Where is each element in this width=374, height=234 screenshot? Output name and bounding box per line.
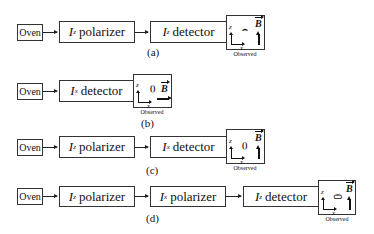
stage-kind: detector — [173, 24, 215, 40]
field-arrow-up-icon — [258, 34, 260, 45]
operator-subscript: x — [167, 143, 170, 151]
stage-box-c2: Ixdetector — [150, 136, 227, 158]
stage-kind: detector — [173, 139, 215, 155]
oven-label: Oven — [19, 142, 41, 153]
stage-kind: polarizer — [79, 189, 125, 205]
stage-box-c1: Izpolarizer — [59, 136, 135, 158]
stage-box-d3: Izdetector — [243, 186, 319, 207]
caption-a: (a) — [147, 46, 159, 58]
observed-box-c: zx () B — [226, 129, 265, 164]
stage-box-d1: Izpolarizer — [59, 186, 135, 207]
operator-subscript: x — [75, 87, 78, 95]
field-vector-label: B — [255, 132, 262, 143]
oven-box-d: Oven — [17, 188, 43, 205]
arrow-icon — [135, 147, 148, 148]
oven-label: Oven — [19, 27, 41, 38]
arrow-icon — [135, 196, 148, 197]
field-vector-label: B — [255, 18, 262, 29]
observed-caption: Observed — [317, 216, 357, 222]
arrow-icon — [43, 196, 57, 197]
stage-kind: detector — [265, 189, 307, 205]
caption-c: (c) — [146, 164, 158, 176]
field-arrow-right-icon — [157, 98, 169, 100]
operator-subscript: z — [73, 143, 76, 151]
arrow-icon — [43, 147, 57, 148]
caption-b: (b) — [141, 117, 154, 129]
oven-label: Oven — [19, 191, 41, 202]
stage-kind: detector — [81, 83, 123, 99]
observed-caption: Observed — [225, 165, 265, 171]
field-arrow-up-icon — [349, 199, 351, 210]
operator-subscript: z — [73, 193, 76, 201]
axis-z-label: z — [229, 137, 232, 145]
beam-pattern: () — [242, 141, 247, 150]
axes-icon: zx — [137, 90, 151, 104]
observed-caption: Observed — [132, 109, 172, 115]
field-vector-label: B — [161, 83, 168, 94]
operator-subscript: z — [259, 193, 262, 201]
arrow-icon — [43, 91, 57, 92]
arrow-icon — [226, 196, 241, 197]
stage-kind: polarizer — [170, 189, 216, 205]
arrow-icon — [43, 32, 57, 33]
axis-z-label: z — [321, 188, 324, 196]
oven-label: Oven — [19, 86, 41, 97]
arrow-icon — [135, 32, 148, 33]
stage-box-d2: Ixpolarizer — [150, 186, 226, 207]
stage-box-a2: Izdetector — [150, 21, 227, 43]
observed-box-a: zx ⌢ B — [226, 15, 265, 50]
field-arrow-up-icon — [258, 148, 260, 159]
stage-kind: polarizer — [79, 139, 125, 155]
field-vector-label: B — [346, 183, 353, 194]
observed-box-d: zx ⊂⊃ B — [318, 180, 356, 215]
beam-pattern: () — [150, 84, 155, 93]
operator-subscript: z — [73, 28, 76, 36]
oven-box-a: Oven — [17, 24, 43, 41]
stage-box-a1: Izpolarizer — [59, 21, 135, 43]
beam-pattern: ⌢ — [242, 24, 248, 35]
axis-z-label: z — [136, 81, 139, 89]
operator-subscript: z — [167, 28, 170, 36]
observed-box-b: zx () B — [133, 74, 172, 108]
oven-box-c: Oven — [17, 139, 43, 156]
caption-d: (d) — [146, 212, 159, 224]
observed-caption: Observed — [225, 51, 265, 57]
beam-pattern: ⊂⊃ — [333, 192, 341, 201]
stage-box-b1: Ixdetector — [59, 80, 134, 102]
stage-kind: polarizer — [79, 24, 125, 40]
oven-box-b: Oven — [17, 83, 43, 100]
axis-z-label: z — [229, 23, 232, 31]
operator-subscript: x — [164, 193, 167, 201]
